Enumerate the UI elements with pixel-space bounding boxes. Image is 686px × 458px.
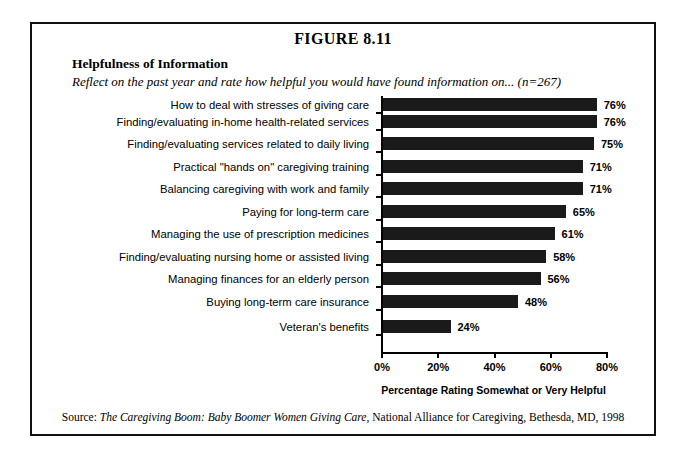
bar-value-label: 48%: [525, 296, 547, 308]
bar-value-label: 76%: [604, 116, 626, 128]
category-axis-tick: [376, 334, 383, 336]
bar: [383, 182, 583, 195]
bar: [383, 115, 597, 128]
source-note: Source: The Caregiving Boom: Baby Boomer…: [32, 411, 654, 423]
figure-frame: FIGURE 8.11 Helpfulness of Information R…: [30, 22, 656, 436]
bar-chart-plot: Percentage Rating Somewhat or Very Helpf…: [32, 24, 658, 438]
value-axis-tick: [494, 352, 496, 358]
bar: [383, 137, 594, 150]
value-axis-tick: [550, 352, 552, 358]
category-axis-tick: [376, 241, 383, 243]
bar-value-label: 65%: [573, 206, 595, 218]
bar: [383, 205, 566, 218]
category-label: Finding/evaluating services related to d…: [127, 138, 369, 150]
bar: [383, 160, 583, 173]
bar-value-label: 61%: [562, 228, 584, 240]
bar-value-label: 58%: [553, 251, 575, 263]
category-label: Managing the use of prescription medicin…: [151, 228, 369, 240]
source-title: The Caregiving Boom: Baby Boomer Women G…: [100, 411, 367, 423]
category-axis-tick: [376, 264, 383, 266]
category-axis-tick: [376, 196, 383, 198]
category-axis-tick: [376, 151, 383, 153]
bar-value-label: 56%: [548, 273, 570, 285]
category-axis-tick: [376, 219, 383, 221]
bar: [383, 98, 597, 111]
category-label: Paying for long-term care: [242, 206, 369, 218]
value-axis-tick-label: 0%: [374, 361, 390, 373]
value-axis-tick-label: 20%: [427, 361, 449, 373]
x-axis-title: Percentage Rating Somewhat or Very Helpf…: [381, 384, 606, 396]
category-label: Buying long-term care insurance: [206, 296, 369, 308]
bar-value-label: 71%: [590, 183, 612, 195]
bar-value-label: 76%: [604, 99, 626, 111]
category-axis-tick: [376, 112, 383, 114]
bar-value-label: 71%: [590, 161, 612, 173]
value-axis-tick-label: 60%: [540, 361, 562, 373]
category-label: Finding/evaluating in-home health-relate…: [117, 116, 369, 128]
category-axis-line: [381, 96, 383, 353]
category-label: Managing finances for an elderly person: [168, 273, 369, 285]
source-rest: , National Alliance for Caregiving, Beth…: [366, 411, 624, 423]
category-axis-tick: [376, 129, 383, 131]
bar-value-label: 24%: [458, 321, 480, 333]
category-axis-tick: [376, 286, 383, 288]
category-label: Practical "hands on" caregiving training: [173, 161, 369, 173]
value-axis-tick-label: 80%: [596, 361, 618, 373]
bar: [383, 320, 451, 333]
value-axis-tick: [437, 352, 439, 358]
category-axis-tick: [376, 309, 383, 311]
bar: [383, 272, 541, 285]
value-axis-tick: [606, 352, 608, 358]
value-axis-tick: [381, 352, 383, 358]
category-label: How to deal with stresses of giving care: [171, 99, 369, 111]
value-axis-tick-label: 40%: [483, 361, 505, 373]
bar: [383, 250, 546, 263]
bar: [383, 227, 555, 240]
category-label: Veteran's benefits: [280, 321, 369, 333]
bar: [383, 295, 518, 308]
bar-value-label: 75%: [601, 138, 623, 150]
category-label: Finding/evaluating nursing home or assis…: [119, 251, 369, 263]
category-axis-tick: [376, 174, 383, 176]
category-label: Balancing caregiving with work and famil…: [160, 183, 369, 195]
source-label: Source:: [62, 411, 100, 423]
